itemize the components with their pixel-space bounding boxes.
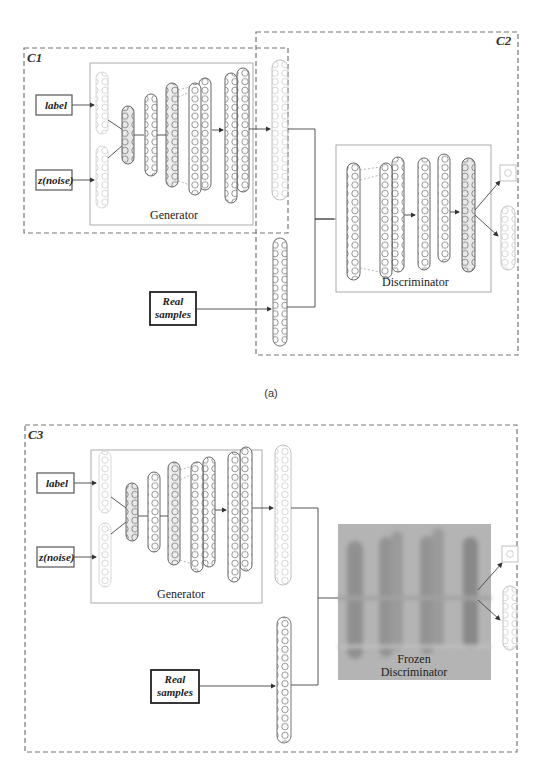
generated-to-disc-wire bbox=[288, 129, 334, 219]
real-sample-layer bbox=[273, 238, 287, 346]
noise-input-text: z(noise) bbox=[37, 174, 73, 187]
disc-output-real-fake-node bbox=[500, 165, 516, 181]
real-samples-text-2: samples bbox=[154, 308, 191, 320]
panel-b: C3 Generator label z(noise) bbox=[25, 425, 518, 752]
caption-a: (a) bbox=[264, 387, 277, 399]
real-samples-text-b-1: Real bbox=[164, 673, 187, 685]
generator-title: Generator bbox=[150, 208, 198, 222]
label-input-text: label bbox=[45, 99, 68, 111]
real-sample-layer-b bbox=[277, 617, 291, 743]
gan-architecture-figure: C1 C2 Generator label z(noise) bbox=[0, 0, 542, 764]
frozen-title-1: Frozen bbox=[397, 652, 430, 666]
region-c2-label: C2 bbox=[496, 33, 512, 48]
frozen-title-2: Discriminator bbox=[381, 665, 448, 679]
disc-output-class-layer bbox=[501, 206, 515, 270]
frozen-discriminator: Frozen Discriminator bbox=[338, 524, 491, 680]
real-to-disc-wire bbox=[287, 219, 315, 307]
generated-to-frozen-wire bbox=[291, 508, 340, 598]
generated-sample-layer-b bbox=[275, 445, 291, 585]
generator-title-b: Generator bbox=[157, 587, 205, 601]
region-c1-label: C1 bbox=[27, 50, 42, 65]
real-samples-text-b-2: samples bbox=[156, 686, 193, 698]
discriminator-title: Discriminator bbox=[382, 275, 449, 289]
label-input-text-b: label bbox=[46, 477, 69, 489]
region-c3-label: C3 bbox=[28, 427, 44, 442]
noise-input-text-b: z(noise) bbox=[38, 551, 74, 564]
frozen-output-real-fake-node bbox=[502, 546, 518, 562]
generated-sample-layer bbox=[272, 60, 288, 200]
real-samples-text-1: Real bbox=[162, 295, 185, 307]
frozen-output-class-layer bbox=[503, 586, 517, 650]
panel-a: C1 C2 Generator label z(noise) bbox=[24, 32, 518, 399]
